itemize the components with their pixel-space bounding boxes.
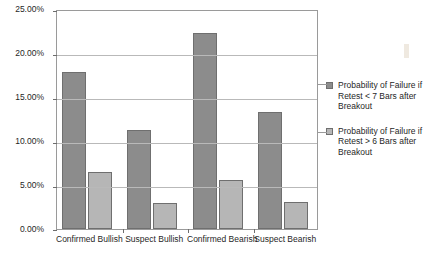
x-category-label: Suspect Bearish <box>253 234 319 244</box>
y-tick-mark <box>53 11 57 12</box>
x-tick-mark <box>188 229 189 233</box>
chart-legend: Probability of Failure if Retest < 7 Bar… <box>326 80 438 171</box>
bar-group <box>57 11 123 229</box>
x-category-label: Confirmed Bullish <box>56 234 122 244</box>
legend-label: Probability of Failure if Retest > 6 Bar… <box>338 126 438 158</box>
x-tick-mark <box>254 229 255 233</box>
bar-group <box>188 11 254 229</box>
legend-label: Probability of Failure if Retest < 7 Bar… <box>338 80 438 112</box>
gridline <box>57 187 317 188</box>
y-tick-label: 0.00% <box>20 225 44 234</box>
y-tick-mark <box>53 230 57 231</box>
bar-chart: 25.00%20.00%15.00%10.00%5.00%0.00% Confi… <box>0 0 438 266</box>
y-tick-label: 15.00% <box>15 93 44 102</box>
y-tick-label: 10.00% <box>15 137 44 146</box>
bar <box>284 202 308 229</box>
y-tick-mark <box>53 99 57 100</box>
y-axis: 25.00%20.00%15.00%10.00%5.00%0.00% <box>0 0 52 266</box>
y-tick-label: 5.00% <box>20 181 44 190</box>
bar <box>88 172 112 229</box>
x-category-label: Confirmed Bearish <box>187 234 253 244</box>
bar <box>193 33 217 229</box>
gridline <box>57 55 317 56</box>
legend-swatch-icon <box>326 82 333 89</box>
x-axis: Confirmed BullishSuspect BullishConfirme… <box>56 234 318 254</box>
y-tick-mark <box>53 187 57 188</box>
bar <box>127 130 151 229</box>
y-tick-label: 20.00% <box>15 49 44 58</box>
image-artifact <box>404 44 409 58</box>
legend-swatch-icon <box>326 128 333 135</box>
gridline <box>57 143 317 144</box>
x-category-label: Suspect Bullish <box>122 234 188 244</box>
legend-connector <box>318 84 327 85</box>
plot-area <box>56 10 318 230</box>
y-tick-mark <box>53 143 57 144</box>
legend-entry[interactable]: Probability of Failure if Retest < 7 Bar… <box>326 80 438 112</box>
gridline <box>57 99 317 100</box>
bar <box>62 72 86 229</box>
bar <box>153 203 177 229</box>
y-tick-mark <box>53 55 57 56</box>
bar <box>258 112 282 229</box>
y-tick-label: 25.00% <box>15 5 44 14</box>
bars-layer <box>57 11 317 229</box>
bar-group <box>123 11 189 229</box>
x-tick-mark <box>123 229 124 233</box>
legend-connector <box>318 132 327 133</box>
legend-entry[interactable]: Probability of Failure if Retest > 6 Bar… <box>326 126 438 158</box>
bar-group <box>254 11 320 229</box>
